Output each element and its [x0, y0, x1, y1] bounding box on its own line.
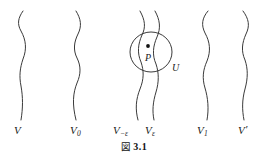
curve-label-V1: V1: [197, 124, 208, 137]
curve-label-V1-base: V: [197, 124, 204, 136]
curve-V1: [203, 11, 210, 120]
curve-label-V-minus-eps-sub: −ε: [120, 129, 128, 138]
point-P-dot: [146, 44, 150, 48]
curve-label-V-eps-sub: ε: [152, 129, 155, 138]
curve-label-V0: V0: [70, 124, 81, 137]
curve-V-eps: [136, 11, 144, 120]
curve-V0: [73, 11, 80, 120]
curve-label-V0-sub: 0: [77, 129, 81, 138]
curve-label-V-base: V: [14, 124, 21, 136]
figure-drawing-canvas: [0, 0, 268, 162]
curve-Vprime: [242, 11, 248, 120]
figure-caption: 図3.1: [0, 142, 268, 152]
figure-3-1: V V0 V−ε Vε V1 V′ P U 図3.1: [0, 0, 268, 162]
curve-Veps: [153, 11, 160, 120]
neighborhood-label-U: U: [172, 63, 179, 73]
curve-label-V: V: [14, 124, 21, 137]
curve-label-V1-sub: 1: [204, 129, 208, 138]
figure-caption-prefix: 図: [121, 141, 131, 152]
curve-label-V-prime-mark: ′: [245, 123, 247, 135]
curve-label-V-eps-base: V: [145, 124, 152, 136]
neighborhood-circle-U: [130, 32, 172, 72]
curve-label-V-minus-eps: V−ε: [113, 124, 128, 137]
figure-caption-number: 3.1: [133, 141, 147, 152]
curve-label-V0-base: V: [70, 124, 77, 136]
point-label-P: P: [145, 53, 151, 63]
curve-label-V-prime: V′: [238, 124, 247, 137]
curve-label-V-minus-eps-base: V: [113, 124, 120, 136]
curve-label-V-eps: Vε: [145, 124, 155, 137]
curve-V: [19, 11, 26, 120]
curve-label-V-prime-base: V: [238, 124, 245, 136]
